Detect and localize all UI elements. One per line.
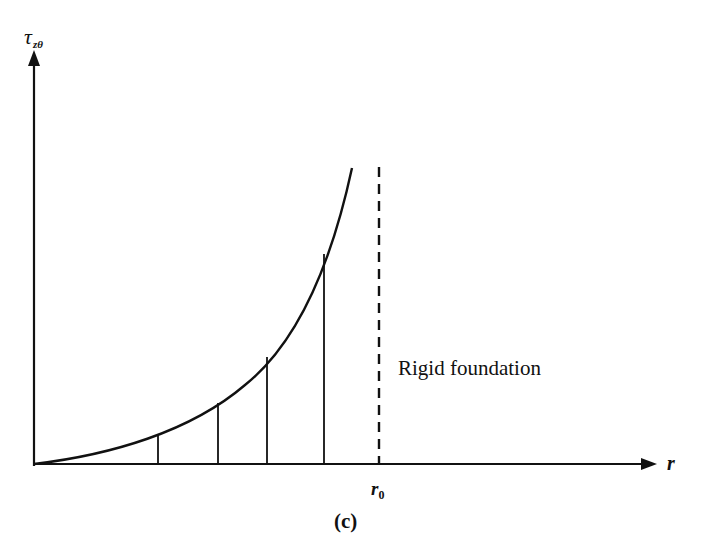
x-axis-label: r [667, 452, 675, 475]
r0-label: r0 [371, 478, 384, 503]
y-axis-label: τzθ [24, 24, 43, 50]
x-axis-arrowhead-icon [641, 458, 657, 470]
stress-diagram [0, 0, 701, 558]
stress-curve [34, 168, 352, 464]
rigid-foundation-label: Rigid foundation [398, 356, 541, 381]
figure-caption: (c) [334, 509, 357, 534]
y-axis-arrowhead-icon [28, 50, 40, 66]
